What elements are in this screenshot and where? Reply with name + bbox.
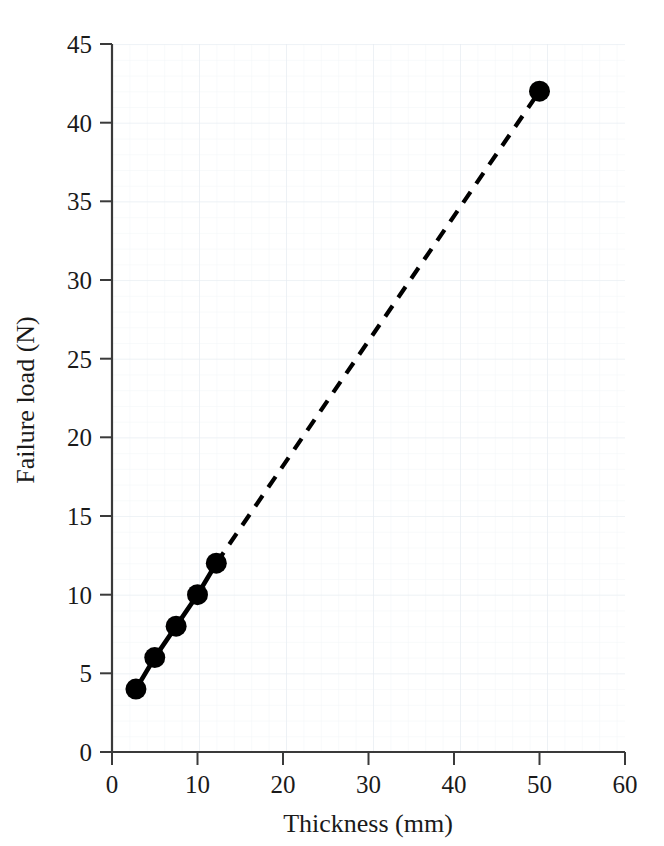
x-tick-label: 30 (356, 771, 381, 798)
x-tick-label: 60 (613, 771, 638, 798)
data-point-marker (187, 584, 208, 605)
data-point-marker (206, 553, 227, 574)
x-tick-label: 50 (527, 771, 552, 798)
y-tick-label: 20 (67, 424, 92, 451)
x-axis-title: Thickness (mm) (283, 809, 453, 838)
data-point-marker (144, 647, 165, 668)
y-tick-label: 45 (67, 31, 92, 58)
y-tick-label: 0 (80, 739, 93, 766)
y-tick-label: 15 (67, 503, 92, 530)
x-tick-label: 40 (442, 771, 467, 798)
y-axis-title: Failure load (N) (11, 316, 40, 484)
plot-gridlines (112, 44, 625, 752)
data-point-marker (166, 616, 187, 637)
x-tick-label: 10 (185, 771, 210, 798)
y-tick-label: 35 (67, 188, 92, 215)
y-tick-label: 25 (67, 346, 92, 373)
y-tick-label: 40 (67, 110, 92, 137)
data-point-marker (529, 81, 550, 102)
y-tick-label: 10 (67, 582, 92, 609)
data-point-marker (125, 679, 146, 700)
x-tick-label: 20 (271, 771, 296, 798)
y-tick-label: 30 (67, 267, 92, 294)
y-tick-label: 5 (80, 660, 93, 687)
x-tick-label: 0 (106, 771, 119, 798)
failure-load-vs-thickness-chart: 0 5 10 15 20 25 30 35 40 45 Failure load… (0, 0, 664, 846)
chart-figure: 0 5 10 15 20 25 30 35 40 45 Failure load… (0, 0, 664, 846)
